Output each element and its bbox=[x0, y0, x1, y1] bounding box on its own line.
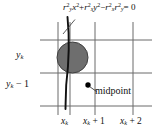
eq-equals-zero: = 0 bbox=[124, 2, 136, 12]
ykm1-suffix: − 1 bbox=[13, 78, 29, 89]
current-pixel-circle bbox=[57, 42, 88, 73]
yk-sub: k bbox=[20, 53, 23, 60]
x-axis-label-xk: xk bbox=[61, 117, 68, 127]
x-axis-label-xk-plus-1: xk + 1 bbox=[83, 117, 105, 127]
figure-canvas bbox=[0, 0, 165, 135]
ellipse-equation-label: r2yx2+r2xy2−r2xr2y= 0 bbox=[63, 3, 135, 13]
xk-sub: k bbox=[65, 119, 68, 126]
midpoint-annotation-label: midpoint bbox=[95, 86, 131, 96]
grid-lines bbox=[40, 22, 152, 115]
x-axis-label-xk-plus-2: xk + 2 bbox=[120, 117, 142, 127]
midpoint-ellipse-figure: r2yx2+r2xy2−r2xr2y= 0 yk yk − 1 xk xk + … bbox=[0, 0, 165, 135]
y-axis-label-yk: yk bbox=[16, 50, 23, 61]
y-axis-label-yk-minus-1: yk − 1 bbox=[6, 79, 29, 90]
xkp1-suffix: + 1 bbox=[90, 116, 105, 126]
xkp2-suffix: + 2 bbox=[127, 116, 142, 126]
